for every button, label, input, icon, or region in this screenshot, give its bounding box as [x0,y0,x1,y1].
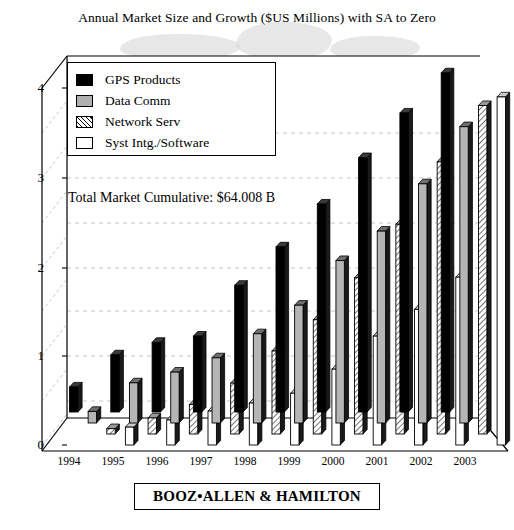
y-tick-2: 2 [22,260,44,276]
legend-item-network-serv[interactable]: Network Serv [76,111,275,132]
total-market-annotation: Total Market Cumulative: $64.008 B [68,190,275,206]
x-tick-2000: 2000 [311,455,355,467]
legend-item-syst-intg[interactable]: Syst Intg./Software [76,132,275,153]
x-tick-1995: 1995 [91,455,135,467]
chart-legend: GPS Products Data Comm Network Serv Syst… [67,62,276,156]
x-tick-1997: 1997 [179,455,223,467]
legend-item-data-comm[interactable]: Data Comm [76,90,275,111]
x-tick-1999: 1999 [267,455,311,467]
legend-label-network-serv: Network Serv [105,115,180,129]
legend-label-syst-intg: Syst Intg./Software [105,136,209,150]
legend-label-data-comm: Data Comm [105,94,171,108]
legend-swatch-network-serv-icon [76,116,93,128]
legend-swatch-data-comm-icon [76,95,93,107]
x-tick-2001: 2001 [355,455,399,467]
legend-swatch-gps-icon [76,74,93,86]
chart-page: Annual Market Size and Growth ($US Milli… [0,0,514,530]
y-tick-1: 1 [22,348,44,364]
x-tick-2002: 2002 [399,455,443,467]
x-tick-2003: 2003 [443,455,487,467]
x-tick-1994: 1994 [47,455,91,467]
y-tick-3: 3 [22,170,44,186]
x-tick-1996: 1996 [135,455,179,467]
legend-swatch-syst-intg-icon [76,137,93,149]
legend-label-gps: GPS Products [105,73,180,87]
y-tick-4: 4 [22,80,44,96]
legend-item-gps[interactable]: GPS Products [76,69,275,90]
x-tick-1998: 1998 [223,455,267,467]
y-tick-0: 0 [22,437,44,453]
